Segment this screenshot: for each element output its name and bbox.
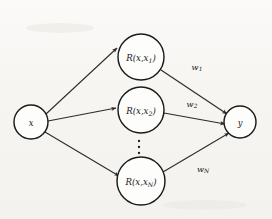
weight-label-N: wN bbox=[197, 164, 210, 174]
edge-hidden-2-to-output bbox=[164, 113, 225, 124]
output-node-label: y bbox=[237, 118, 243, 128]
hidden-node-N-label-prefix: R(x,x bbox=[124, 177, 147, 187]
edge-input-to-hidden-1 bbox=[46, 48, 117, 114]
weight-1-base: w bbox=[192, 62, 199, 72]
weight-2-sub: 2 bbox=[193, 103, 198, 109]
weight-2-base: w bbox=[187, 99, 194, 109]
weight-1-sub: 1 bbox=[199, 66, 203, 72]
weight-N-base: w bbox=[197, 164, 204, 174]
weight-label-2: w2 bbox=[187, 99, 198, 109]
edge-input-to-hidden-2 bbox=[48, 108, 116, 121]
weight-label-1: w1 bbox=[192, 62, 203, 72]
edge-input-to-hidden-N bbox=[45, 132, 119, 176]
ellipsis-dot bbox=[138, 152, 140, 154]
hidden-node-2-label-prefix: R(x,x bbox=[125, 106, 148, 116]
input-node-label: x bbox=[29, 118, 34, 128]
vertical-ellipsis bbox=[138, 140, 140, 154]
hidden-node-1-label-prefix: R(x,x bbox=[125, 53, 148, 63]
weight-N-sub: N bbox=[203, 168, 210, 174]
hidden-node-1-label-suffix: ) bbox=[151, 53, 155, 63]
ellipsis-dot bbox=[138, 140, 140, 142]
hidden-node-2-label-suffix: ) bbox=[151, 106, 155, 116]
hidden-node-N-label-suffix: ) bbox=[152, 177, 156, 187]
scan-smudge bbox=[163, 200, 247, 210]
scan-smudge bbox=[26, 23, 94, 33]
figure-container: x R(x,x1) R(x,x2) R(x,xN) y w1 w2 bbox=[0, 0, 272, 219]
ellipsis-dot bbox=[138, 146, 140, 148]
network-diagram: x R(x,x1) R(x,x2) R(x,xN) y w1 w2 bbox=[0, 0, 272, 219]
